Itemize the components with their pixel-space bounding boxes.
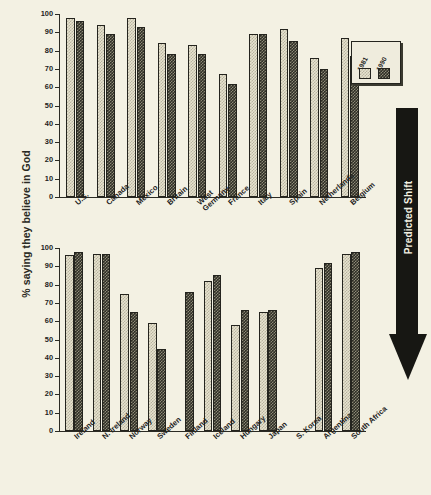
bar — [185, 292, 194, 431]
y-axis-tick — [55, 376, 59, 377]
y-axis-tick-label: 80 — [26, 281, 53, 288]
y-axis-spine — [59, 14, 60, 197]
bar — [213, 275, 222, 431]
y-axis-tick-label: 0 — [26, 427, 53, 434]
y-axis-tick-label: 100 — [26, 244, 53, 251]
y-axis-tick — [55, 413, 59, 414]
y-axis-tick-label: 90 — [26, 262, 53, 269]
bar — [167, 54, 176, 197]
y-axis-tick-label: 10 — [26, 175, 53, 182]
bar — [310, 58, 319, 197]
bar — [324, 263, 333, 431]
bar — [289, 41, 298, 197]
y-axis-tick — [55, 160, 59, 161]
y-axis-tick — [55, 124, 59, 125]
y-axis-tick-label: 10 — [26, 409, 53, 416]
bar — [315, 268, 324, 431]
bar — [66, 18, 75, 197]
bar — [76, 21, 85, 197]
y-axis-tick-label: 60 — [26, 83, 53, 90]
y-axis-tick-label: 0 — [26, 193, 53, 200]
y-axis-tick — [55, 248, 59, 249]
predicted-shift-label: Predicted Shift — [403, 133, 414, 303]
y-axis-tick-label: 90 — [26, 28, 53, 35]
bar — [228, 84, 237, 197]
y-axis-tick-label: 40 — [26, 354, 53, 361]
legend-swatch-1990 — [378, 68, 390, 79]
chart-bottom-panel — [60, 248, 365, 431]
y-axis-tick — [55, 321, 59, 322]
y-axis-tick — [55, 179, 59, 180]
bar — [74, 252, 83, 431]
y-axis-tick — [55, 87, 59, 88]
bar — [106, 34, 115, 197]
y-axis-tick — [55, 266, 59, 267]
bar — [320, 69, 329, 197]
y-axis-tick — [55, 303, 59, 304]
y-axis-tick-label: 100 — [26, 10, 53, 17]
bar — [137, 27, 146, 197]
bar — [204, 281, 213, 431]
bar — [93, 254, 102, 432]
y-axis-tick-label: 40 — [26, 120, 53, 127]
bar — [249, 34, 258, 197]
y-axis-tick — [55, 14, 59, 15]
figure-canvas: % saying they believe in God 01020304050… — [0, 0, 431, 495]
bar — [188, 45, 197, 197]
y-axis-tick-label: 20 — [26, 156, 53, 163]
y-axis-tick-label: 50 — [26, 102, 53, 109]
bar — [231, 325, 240, 431]
bar — [158, 43, 167, 197]
y-axis-tick-label: 70 — [26, 299, 53, 306]
bar — [157, 349, 166, 431]
bar — [351, 252, 360, 431]
y-axis-tick — [55, 106, 59, 107]
y-axis-tick — [55, 51, 59, 52]
bar — [241, 310, 250, 431]
y-axis-tick-label: 30 — [26, 372, 53, 379]
bar — [65, 255, 74, 431]
y-axis-tick-label: 30 — [26, 138, 53, 145]
y-axis-tick — [55, 394, 59, 395]
bar — [97, 25, 106, 197]
y-axis-tick-label: 20 — [26, 390, 53, 397]
bar — [268, 310, 277, 431]
bar — [342, 254, 351, 432]
bar — [259, 34, 268, 197]
y-axis-tick — [55, 142, 59, 143]
bar — [120, 294, 129, 431]
y-axis-tick — [55, 431, 59, 432]
legend: 1981 1990 — [351, 41, 401, 84]
predicted-shift-arrow: Predicted Shift — [389, 108, 427, 383]
y-axis-tick-label: 70 — [26, 65, 53, 72]
bar — [130, 312, 139, 431]
y-axis-title: % saying they believe in God — [20, 94, 32, 354]
arrow-head-icon — [389, 334, 427, 380]
y-axis-tick — [55, 69, 59, 70]
bar — [102, 254, 111, 432]
y-axis-tick — [55, 197, 59, 198]
y-axis-tick — [55, 285, 59, 286]
bar — [198, 54, 207, 197]
y-axis-tick-label: 50 — [26, 336, 53, 343]
bar — [127, 18, 136, 197]
legend-swatch-1981 — [359, 68, 371, 79]
bar — [148, 323, 157, 431]
y-axis-tick-label: 60 — [26, 317, 53, 324]
y-axis-tick — [55, 32, 59, 33]
y-axis-spine — [59, 248, 60, 431]
bar — [280, 29, 289, 197]
y-axis-tick-label: 80 — [26, 47, 53, 54]
chart-top-panel — [60, 14, 365, 197]
y-axis-tick — [55, 358, 59, 359]
y-axis-tick — [55, 340, 59, 341]
